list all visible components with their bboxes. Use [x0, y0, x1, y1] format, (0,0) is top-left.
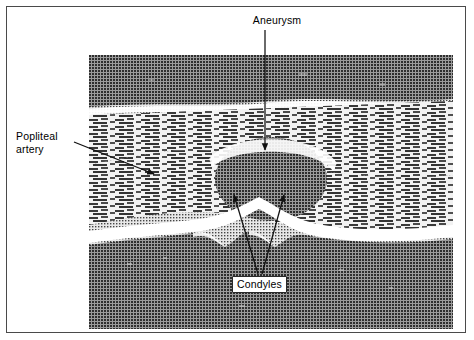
- label-condyles: Condyles: [232, 276, 287, 293]
- label-popliteal-artery: Popliteal artery: [16, 130, 78, 155]
- near-field-shadow: [89, 55, 453, 107]
- label-aneurysm: Aneurysm: [222, 14, 332, 27]
